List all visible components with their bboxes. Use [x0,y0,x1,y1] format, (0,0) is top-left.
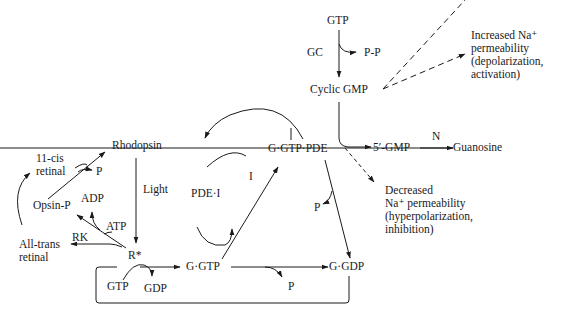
node-adp: ADP [81,192,104,205]
node-cyclic-gmp: Cyclic GMP [310,83,368,96]
node-rhodopsin: Rhodopsin [112,139,162,152]
label-n: N [432,130,440,143]
node-g-gtp-pde: G·GTP·PDE [268,142,327,155]
node-increased-na-permeability: Increased Na⁺ permeability (depolarizati… [471,29,543,81]
node-gtp-box: GTP [107,280,129,293]
node-p-phosphate-mid: P [314,201,320,214]
node-g-gtp: G·GTP [186,260,220,273]
node-atp: ATP [106,220,126,233]
node-pp: P-P [364,46,381,59]
node-5-gmp: 5′-GMP [373,141,410,154]
node-g-gdp: G·GDP [329,260,364,273]
node-all-trans-retinal: All-trans retinal [19,238,60,264]
node-guanosine: Guanosine [453,141,502,154]
node-opsin-p: Opsin-P [33,199,71,212]
node-decreased-na-permeability: Decreased Na⁺ permeability (hyperpolariz… [385,184,473,236]
label-light: Light [143,183,168,196]
node-p-phosphate-top: P [96,165,102,178]
label-rk: RK [72,231,88,244]
node-i-inhibitor: I [249,170,253,183]
node-r-star: R* [128,249,141,262]
node-gtp: GTP [327,14,349,27]
label-gc: GC [307,46,323,59]
node-11-cis-retinal: 11-cis retinal [36,152,65,178]
node-pde-i: PDE·I [191,187,220,200]
node-p-phosphate-bottom: P [288,280,294,293]
node-gdp-box: GDP [144,282,167,295]
